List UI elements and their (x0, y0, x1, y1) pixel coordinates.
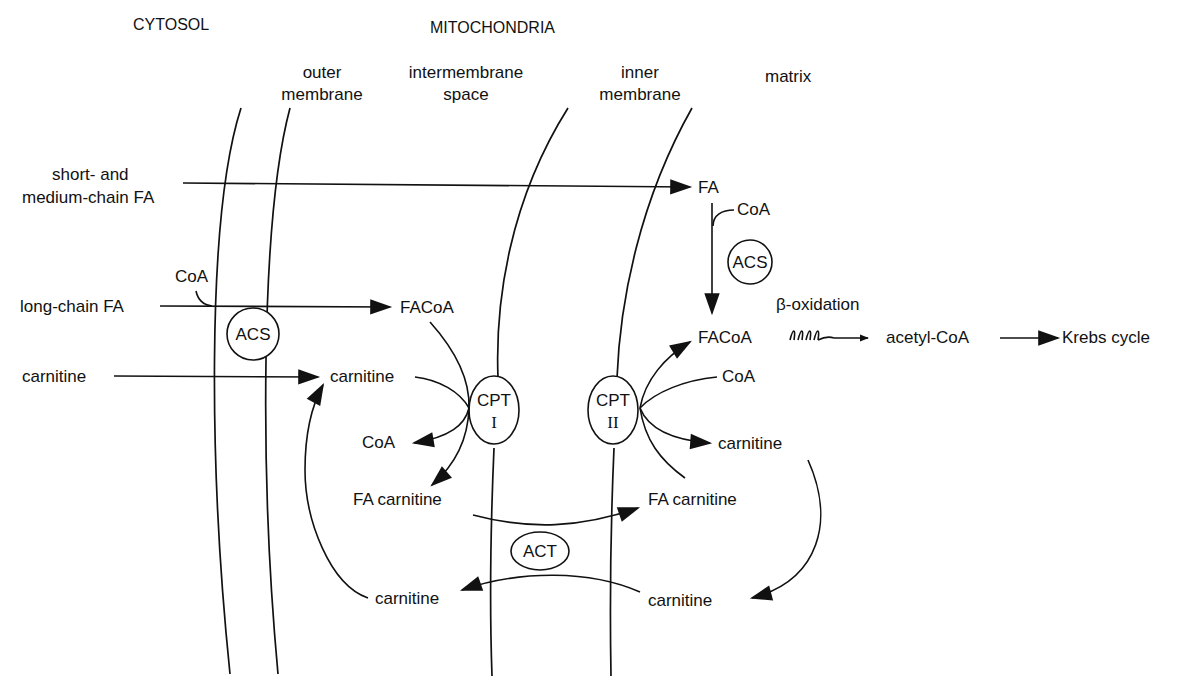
coa-matrix-top-label: CoA (737, 200, 771, 219)
cpt1-label-line2: I (491, 413, 497, 432)
coa-matrix-join-curve (713, 210, 734, 226)
long-chain-fa-label: long-chain FA (20, 297, 125, 316)
fa-carnitine-matrix-label: FA carnitine (648, 490, 737, 509)
facoa-ims-label: FACoA (400, 298, 455, 317)
fa-matrix-label: FA (698, 178, 719, 197)
outer-membrane-label-line2: membrane (281, 85, 362, 104)
carnitine-import-arrow (114, 376, 318, 377)
carnitine-ims-label: carnitine (330, 367, 394, 386)
mitochondria-header: MITOCHONDRIA (430, 19, 555, 36)
coa-cytosol-label: CoA (175, 267, 209, 286)
facoa-to-cpt1-curve (430, 322, 469, 408)
carnitine-to-cpt1-curve (415, 377, 469, 408)
carnitine-matrix-label: carnitine (718, 434, 782, 453)
coa-to-cpt2-curve (640, 377, 717, 408)
acetyl-coa-label: acetyl-CoA (886, 328, 970, 347)
facoa-matrix-label: FACoA (698, 328, 753, 347)
inner-membrane-label-line1: inner (621, 63, 659, 82)
cytosol-header: CYTOSOL (133, 16, 209, 33)
cpt1-label-line1: CPT (477, 391, 511, 410)
carnitine-ims-return-label: carnitine (375, 589, 439, 608)
cpt2-to-facoa-arrow (640, 342, 690, 408)
short-fa-arrow (183, 183, 690, 187)
coa-matrix-label: CoA (722, 367, 756, 386)
matrix-label: matrix (765, 67, 812, 86)
outer-membrane-line-right (266, 108, 290, 674)
cpt2-enzyme (588, 376, 638, 444)
carnitine-shuttle-diagram: CYTOSOL MITOCHONDRIA outer membrane inte… (0, 0, 1190, 696)
fa-carnitine-ims-label: FA carnitine (353, 490, 442, 509)
long-fa-arrow (160, 306, 390, 307)
intermembrane-space-label-line1: intermembrane (409, 63, 523, 82)
beta-oxidation-label: β-oxidation (776, 295, 860, 314)
carnitine-matrix-recycle-arrow (752, 460, 821, 598)
carnitine-matrix-return-label: carnitine (648, 591, 712, 610)
acs-matrix-label: ACS (733, 253, 768, 272)
cpt2-to-carnitine-arrow (640, 408, 710, 443)
cpt2-label-line2: II (607, 413, 619, 432)
cpt2-label-line1: CPT (596, 391, 630, 410)
krebs-cycle-label: Krebs cycle (1062, 328, 1150, 347)
outer-membrane-line-left (214, 108, 241, 674)
short-medium-fa-label-line2: medium-chain FA (22, 188, 155, 207)
cpt1-enzyme (469, 376, 519, 444)
carnitine-cytosol-label: carnitine (22, 367, 86, 386)
intermembrane-space-label-line2: space (443, 85, 488, 104)
beta-oxidation-spiral-icon (790, 331, 834, 340)
coa-cytosol-join-curve (196, 291, 212, 306)
coa-ims-label: CoA (362, 433, 396, 452)
fa-carnitine-translocation-arrow (473, 508, 638, 525)
act-label: ACT (523, 542, 557, 561)
outer-membrane-label-line1: outer (303, 63, 342, 82)
cpt1-to-coa-arrow (414, 408, 469, 443)
short-medium-fa-label-line1: short- and (52, 165, 129, 184)
inner-membrane-label-line2: membrane (599, 85, 680, 104)
acs-outer-label: ACS (236, 325, 271, 344)
carnitine-return-arrow (462, 575, 640, 592)
